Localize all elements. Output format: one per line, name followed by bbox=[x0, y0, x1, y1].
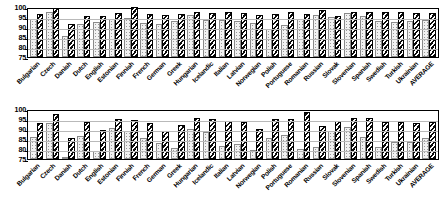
bar-series-a bbox=[375, 147, 382, 159]
bar-series-a bbox=[187, 15, 194, 57]
y-axis-labels-bottom: 7580859095100 bbox=[0, 102, 26, 160]
grid-line bbox=[28, 49, 438, 50]
bar-series-b bbox=[131, 120, 138, 159]
grid-line bbox=[28, 151, 438, 152]
bar-series-b bbox=[178, 14, 185, 57]
x-tick: Italian bbox=[217, 59, 233, 102]
bar-series-a bbox=[124, 131, 131, 159]
bar-series-a bbox=[328, 131, 335, 159]
x-axis-labels-top: BulgarianCzechDanishDutchEnglishEstonian… bbox=[27, 59, 439, 102]
bar-series-b bbox=[256, 15, 263, 57]
x-tick: Finnish bbox=[123, 59, 139, 102]
bar-series-a bbox=[30, 19, 37, 57]
bar-series-a bbox=[219, 146, 226, 159]
bar-series-a bbox=[171, 148, 178, 159]
x-tick: Czech bbox=[44, 59, 60, 102]
x-tick: Bulgarian bbox=[28, 161, 44, 204]
x-tick: Danish bbox=[60, 161, 76, 204]
bar-series-a bbox=[203, 132, 210, 159]
x-tick: Slovenian bbox=[343, 59, 359, 102]
bar-series-a bbox=[281, 25, 288, 57]
grid-line bbox=[28, 39, 438, 40]
bar-series-b bbox=[209, 119, 216, 159]
grid-line bbox=[28, 131, 438, 132]
grid-line bbox=[28, 29, 438, 30]
bar-series-a bbox=[297, 19, 304, 57]
x-tick: Russian bbox=[312, 59, 328, 102]
x-tick: Icelandic bbox=[201, 161, 217, 204]
x-tick: Norwegian bbox=[249, 59, 265, 102]
bar-series-a bbox=[124, 18, 131, 57]
x-tick: Estonian bbox=[107, 59, 123, 102]
bar-series-b bbox=[162, 15, 169, 57]
bar-series-b bbox=[272, 119, 279, 159]
x-tick: Estonian bbox=[107, 161, 123, 204]
bar-series-a bbox=[313, 147, 320, 159]
x-tick: Romanian bbox=[296, 59, 312, 102]
axes-frame-bottom bbox=[27, 110, 439, 160]
x-tick: Czech bbox=[44, 161, 60, 204]
x-tick: Romanian bbox=[296, 161, 312, 204]
bar-series-b bbox=[194, 118, 201, 159]
bar-series-b bbox=[351, 118, 358, 159]
x-tick: Icelandic bbox=[201, 59, 217, 102]
x-tick: Russian bbox=[312, 161, 328, 204]
bar-series-a bbox=[313, 15, 320, 57]
plot-area-top: 7580859095100 BulgarianCzechDanishDutchE… bbox=[0, 0, 442, 102]
x-tick: AVERAGE bbox=[422, 161, 438, 204]
chart-bottom: 7580859095100 BulgarianCzechDanishDutchE… bbox=[0, 102, 442, 204]
bar-series-a bbox=[109, 128, 116, 159]
y-tick-mark bbox=[25, 9, 28, 10]
y-tick-mark bbox=[25, 141, 28, 142]
y-tick-mark bbox=[25, 121, 28, 122]
bar-series-b bbox=[304, 14, 311, 57]
bar-series-b bbox=[147, 14, 154, 57]
figure-sheet: 7580859095100 BulgarianCzechDanishDutchE… bbox=[0, 0, 442, 204]
bar-series-a bbox=[360, 137, 367, 159]
y-axis-labels-top: 7580859095100 bbox=[0, 0, 26, 58]
y-tick-mark bbox=[25, 49, 28, 50]
bar-series-a bbox=[266, 29, 273, 57]
x-tick: Italian bbox=[217, 161, 233, 204]
axes-frame-top bbox=[27, 8, 439, 58]
y-tick-mark bbox=[25, 131, 28, 132]
x-tick: Bulgarian bbox=[28, 59, 44, 102]
bar-series-b bbox=[115, 119, 122, 159]
bar-series-b bbox=[37, 14, 44, 57]
x-tick: Norwegian bbox=[249, 161, 265, 204]
grid-line bbox=[28, 121, 438, 122]
x-axis-labels-bottom: BulgarianCzechDanishDutchEnglishEstonian… bbox=[27, 161, 439, 204]
y-tick-mark bbox=[25, 151, 28, 152]
bar-series-a bbox=[360, 16, 367, 57]
bar-series-b bbox=[84, 16, 91, 57]
bar-series-b bbox=[100, 16, 107, 57]
bar-series-a bbox=[281, 135, 288, 159]
bar-series-b bbox=[335, 16, 342, 57]
x-tick: Danish bbox=[60, 59, 76, 102]
bar-series-a bbox=[328, 17, 335, 57]
chart-top: 7580859095100 BulgarianCzechDanishDutchE… bbox=[0, 0, 442, 102]
bar-series-a bbox=[62, 157, 69, 159]
y-tick-mark bbox=[25, 111, 28, 112]
x-tick: German bbox=[154, 161, 170, 204]
x-tick: Slovenian bbox=[343, 161, 359, 204]
grid-line bbox=[28, 19, 438, 20]
bar-series-b bbox=[272, 14, 279, 57]
bar-series-a bbox=[77, 136, 84, 159]
bar-series-b bbox=[256, 129, 263, 159]
bar-series-b bbox=[162, 131, 169, 159]
bar-series-a bbox=[187, 129, 194, 159]
bar-series-b bbox=[288, 119, 295, 159]
y-tick-mark bbox=[25, 19, 28, 20]
y-tick-mark bbox=[25, 29, 28, 30]
x-tick: French bbox=[138, 161, 154, 204]
x-tick: Finnish bbox=[123, 161, 139, 204]
bar-series-b bbox=[100, 130, 107, 159]
plot-area-bottom: 7580859095100 BulgarianCzechDanishDutchE… bbox=[0, 102, 442, 204]
x-tick: AVERAGE bbox=[422, 59, 438, 102]
x-tick: French bbox=[138, 59, 154, 102]
x-tick: German bbox=[154, 59, 170, 102]
bar-series-b bbox=[366, 118, 373, 159]
grid-line bbox=[28, 141, 438, 142]
y-tick-mark bbox=[25, 39, 28, 40]
